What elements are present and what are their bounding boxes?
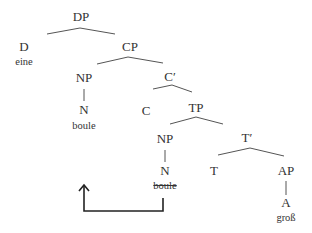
node-cbar: C′ [164,70,176,83]
word-boule-trace: boule [153,181,176,192]
word-eine: eine [15,57,33,68]
tp-branch [170,117,223,124]
node-np-spec: NP [76,71,93,84]
node-d: D [19,40,28,53]
node-tbar: T′ [242,131,253,144]
node-ap: AP [278,164,295,177]
node-t: T [210,164,218,177]
node-a: A [281,196,290,209]
movement-arrow [79,185,163,211]
node-n-spec: N [79,103,88,116]
tbar-branch [218,148,284,156]
node-tp: TP [188,101,203,114]
word-gross: groß [276,213,295,224]
node-n-trace: N [160,164,169,177]
node-np-trace: NP [157,132,174,145]
cbar-branch [153,85,192,92]
dp-branch [47,28,115,34]
cp-branch [97,57,163,64]
tree-branches [0,0,312,233]
node-cp: CP [122,40,138,53]
node-dp: DP [73,10,90,23]
word-boule-moved: boule [72,121,95,132]
node-c: C [142,104,151,117]
